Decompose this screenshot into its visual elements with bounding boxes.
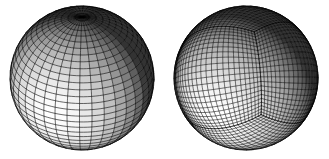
mesh-facet <box>223 52 229 57</box>
mesh-facet <box>192 66 196 73</box>
mesh-facet <box>80 127 92 132</box>
mesh-facet <box>80 62 90 69</box>
mesh-facet <box>268 82 272 87</box>
mesh-facet <box>264 77 268 82</box>
mesh-facet <box>272 82 276 88</box>
mesh-facet <box>238 52 243 57</box>
mesh-facet <box>275 71 280 77</box>
mesh-facet <box>79 116 92 122</box>
mesh-facet <box>234 68 240 74</box>
mesh-facet <box>80 75 91 82</box>
mesh-facet <box>201 71 207 78</box>
mesh-facet <box>69 75 80 83</box>
mesh-facet <box>243 57 248 62</box>
mesh-facet <box>196 72 201 79</box>
mesh-facet <box>264 72 268 77</box>
mesh-facet <box>293 83 298 89</box>
mesh-facet <box>206 52 212 58</box>
mesh-facet <box>188 73 192 80</box>
mesh-facet <box>229 74 235 81</box>
mesh-facet <box>289 77 294 83</box>
mesh-facet <box>249 68 254 73</box>
mesh-facet <box>206 77 212 84</box>
mesh-facet <box>80 48 88 55</box>
mesh-facet <box>224 75 230 82</box>
mesh-facet <box>80 68 90 75</box>
mesh-facet <box>81 42 88 48</box>
mesh-facet <box>224 81 230 88</box>
mesh-facet <box>223 69 229 76</box>
mesh-facet <box>261 81 265 86</box>
mesh-facet <box>218 38 223 42</box>
mesh-facet <box>268 77 272 82</box>
mesh-facet <box>233 52 238 57</box>
mesh-facet <box>80 83 92 90</box>
mesh-facet <box>294 77 299 83</box>
mesh-facet <box>228 63 234 69</box>
mesh-facet <box>211 63 217 70</box>
mesh-facet <box>67 103 79 110</box>
mesh-facet <box>212 47 218 52</box>
mesh-facet <box>229 68 235 74</box>
mesh-facet <box>276 88 280 94</box>
mesh-facet <box>228 52 233 57</box>
mesh-facet <box>249 73 253 79</box>
mesh-facet <box>80 55 89 62</box>
mesh-facet <box>302 70 306 77</box>
mesh-facet <box>206 70 212 77</box>
mesh-facet <box>212 70 218 77</box>
mesh-facet <box>289 71 294 77</box>
mesh-facet <box>228 47 233 52</box>
mesh-facet <box>284 88 289 94</box>
mesh-facet <box>264 82 268 87</box>
mesh-facet <box>261 77 265 82</box>
mesh-facet <box>238 48 243 53</box>
mesh-facet <box>298 70 303 76</box>
mesh-facet <box>201 59 206 66</box>
mesh-facet <box>192 72 197 79</box>
mesh-facet <box>244 63 249 68</box>
mesh-facet <box>68 82 80 90</box>
mesh-facet <box>80 90 92 97</box>
mesh-facet <box>223 47 228 52</box>
mesh-facet <box>284 83 289 89</box>
mesh-facet <box>217 57 223 63</box>
mesh-facet <box>201 65 206 72</box>
mesh-facet <box>80 132 92 137</box>
mesh-facet <box>71 54 80 61</box>
mesh-facet <box>228 43 233 48</box>
mesh-facet <box>206 64 212 71</box>
mesh-facet <box>245 73 250 79</box>
mesh-facet <box>80 122 92 128</box>
mesh-facet <box>272 87 276 92</box>
mesh-facet <box>67 96 79 104</box>
sphere-scene-svg <box>0 0 329 159</box>
mesh-facet <box>223 38 228 42</box>
mesh-facet <box>293 71 298 77</box>
mesh-facet <box>223 57 229 63</box>
mesh-facet <box>228 57 234 63</box>
mesh-facet <box>280 71 285 77</box>
latitude-longitude-sphere <box>10 6 154 150</box>
mesh-facet <box>298 77 302 83</box>
mesh-facet <box>80 96 92 103</box>
mesh-facet <box>196 65 201 72</box>
mesh-facet <box>284 77 289 83</box>
mesh-facet <box>276 77 280 83</box>
mesh-facet <box>70 68 81 76</box>
mesh-facet <box>224 32 229 35</box>
mesh-facet <box>235 74 241 80</box>
mesh-facet <box>234 63 240 69</box>
mesh-facet <box>267 72 271 77</box>
mesh-facet <box>306 77 310 83</box>
mesh-facet <box>70 61 80 69</box>
mesh-facet <box>80 103 92 110</box>
mesh-facet <box>276 82 280 88</box>
mesh-facet <box>217 52 223 58</box>
mesh-facet <box>223 42 228 47</box>
mesh-facet <box>218 42 224 47</box>
mesh-facet <box>280 82 285 88</box>
mesh-facet <box>240 73 245 79</box>
mesh-facet <box>271 77 275 82</box>
mesh-facet <box>239 63 244 69</box>
